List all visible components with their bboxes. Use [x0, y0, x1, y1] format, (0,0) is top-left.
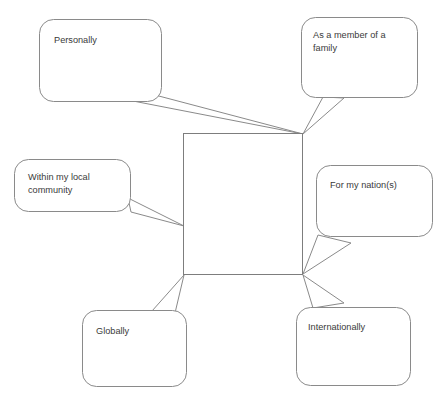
- footer-smudge-text: [0, 407, 448, 416]
- bubble-nation-body: [317, 166, 433, 237]
- bubble-family-line-2: family: [313, 43, 337, 53]
- bubble-internationally-body: [297, 308, 411, 386]
- bubble-personally-body: [40, 20, 162, 102]
- bubble-globally-line-1: Globally: [96, 326, 130, 336]
- bubble-nation-line-1: For my nation(s): [330, 180, 397, 190]
- diagram-canvas: Personally As a member of a family Withi…: [0, 0, 448, 418]
- tail-globally: [152, 275, 184, 313]
- diagram-svg: Personally As a member of a family Withi…: [0, 0, 448, 418]
- bubble-family-line-1: As a member of a: [313, 30, 386, 40]
- bubble-personally-line-1: Personally: [54, 35, 97, 45]
- bubble-family[interactable]: As a member of a family: [302, 18, 418, 98]
- bubble-local-community[interactable]: Within my local community: [15, 160, 131, 212]
- bubble-internationally-line-1: Internationally: [308, 322, 366, 332]
- bubble-local-community-line-2: community: [28, 185, 73, 195]
- tail-nation: [303, 235, 351, 274]
- bubble-personally[interactable]: Personally: [40, 20, 162, 102]
- tail-personally: [133, 95, 303, 134]
- bubble-nation[interactable]: For my nation(s): [317, 166, 433, 237]
- tail-family: [303, 97, 344, 134]
- bubble-globally-body: [83, 311, 187, 387]
- tail-internationally: [303, 275, 344, 308]
- bubble-internationally[interactable]: Internationally: [297, 308, 411, 386]
- bubble-local-community-line-1: Within my local: [28, 172, 90, 182]
- tail-local-community: [128, 198, 184, 226]
- bubble-globally[interactable]: Globally: [83, 311, 187, 387]
- center-box[interactable]: [184, 134, 303, 275]
